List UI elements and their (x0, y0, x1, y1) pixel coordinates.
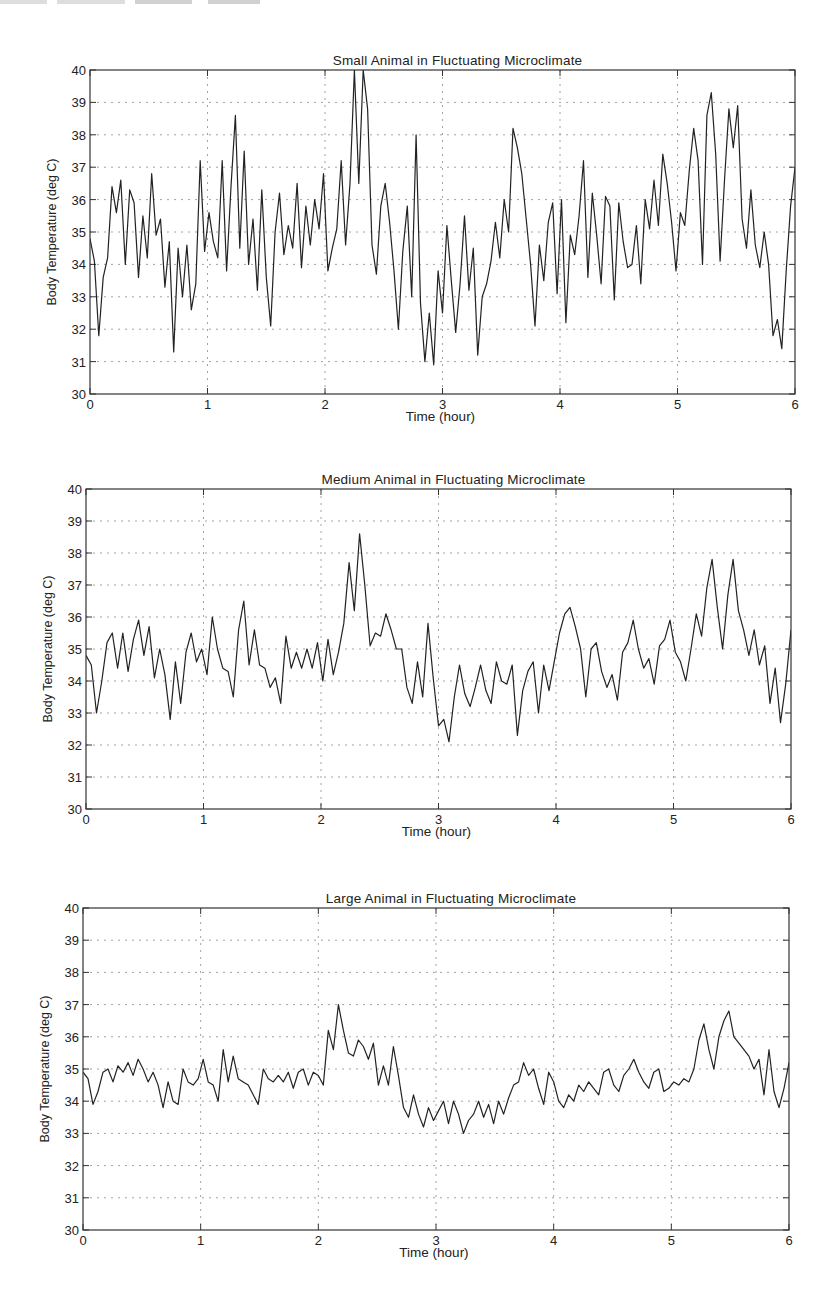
y-tick-label: 39 (65, 933, 79, 948)
y-tick-label: 30 (65, 1223, 79, 1238)
y-tick-label: 33 (65, 1126, 79, 1141)
chart-title: Large Animal in Fluctuating Microclimate (326, 891, 576, 906)
y-tick-label: 40 (65, 901, 79, 916)
y-tick-label: 31 (65, 1191, 79, 1206)
x-tick-label: 4 (550, 1233, 557, 1248)
y-axis-label: Body Temperature (deg C) (38, 995, 52, 1142)
y-tick-label: 36 (65, 1030, 79, 1045)
y-tick-label: 34 (65, 1094, 79, 1109)
x-tick-label: 6 (785, 1233, 792, 1248)
chart-canvas: 01234563031323334353637383940Large Anima… (0, 0, 840, 1309)
x-tick-label: 1 (197, 1233, 204, 1248)
x-axis-label: Time (hour) (399, 1245, 468, 1260)
grid-lines (83, 908, 789, 1230)
y-tick-label: 32 (65, 1159, 79, 1174)
y-tick-label: 37 (65, 998, 79, 1013)
x-tick-label: 0 (79, 1233, 86, 1248)
y-tick-label: 38 (65, 965, 79, 980)
y-tick-label: 35 (65, 1062, 79, 1077)
x-tick-label: 5 (668, 1233, 675, 1248)
x-tick-label: 2 (315, 1233, 322, 1248)
